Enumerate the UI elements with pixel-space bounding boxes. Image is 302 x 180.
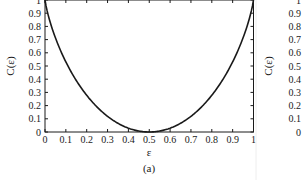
panel-b-y-tick-label: 0.3 xyxy=(289,87,302,98)
panel-b-y-tick-label: 0.8 xyxy=(289,21,302,32)
panel-b-y-tick-label: 0 xyxy=(296,127,301,138)
y-tick-label: 0.9 xyxy=(29,8,42,19)
x-tick-label: 1 xyxy=(251,134,256,145)
y-tick-label: 0.5 xyxy=(29,61,42,72)
y-tick-labels: 00.10.20.30.40.50.60.70.80.91 xyxy=(29,0,42,138)
x-tick-label: 0.9 xyxy=(226,134,239,145)
panel-b-y-tick-label: 0.2 xyxy=(289,100,302,111)
x-tick-label: 0.5 xyxy=(143,134,156,145)
y-axis-label: C(ε) xyxy=(4,56,17,76)
panel-b-y-tick-label: 0.6 xyxy=(289,47,302,58)
y-tick-label: 0.7 xyxy=(29,34,42,45)
x-tick-label: 0.7 xyxy=(185,134,198,145)
panel-b-y-tick-labels: 00.10.20.30.40.50.60.70.80.91 xyxy=(289,0,302,138)
x-tick-label: 0 xyxy=(43,134,48,145)
x-tick-label: 0.2 xyxy=(80,134,93,145)
y-tick-label: 0.2 xyxy=(29,100,42,111)
panel-b-y-tick-label: 0.4 xyxy=(289,74,302,85)
panel-b-y-tick-label: 0.9 xyxy=(289,8,302,19)
panel-b-y-tick-label: 1 xyxy=(296,0,301,6)
x-tick-label: 0.8 xyxy=(206,134,219,145)
y-tick-label: 0.8 xyxy=(29,21,42,32)
y-tick-label: 0.4 xyxy=(29,74,42,85)
panel-b-y-tick-label: 0.5 xyxy=(289,61,302,72)
y-tick-label: 0.3 xyxy=(29,87,42,98)
figure: 00.10.20.30.40.50.60.70.80.91 00.10.20.3… xyxy=(0,0,302,180)
y-tick-label: 1 xyxy=(36,0,41,6)
panel-b-y-tick-label: 0.1 xyxy=(289,113,302,124)
y-tick-label: 0.1 xyxy=(29,113,42,124)
x-tick-label: 0.4 xyxy=(122,134,135,145)
y-tick-label: 0.6 xyxy=(29,47,42,58)
x-tick-label: 0.1 xyxy=(60,134,73,145)
panel-caption: (a) xyxy=(143,162,156,175)
panel-b-y-axis-label: C(ε) xyxy=(262,56,275,76)
x-tick-label: 0.6 xyxy=(164,134,177,145)
y-tick-label: 0 xyxy=(36,127,41,138)
x-axis-label: ε xyxy=(147,146,152,158)
x-tick-label: 0.3 xyxy=(101,134,114,145)
panel-b-y-tick-label: 0.7 xyxy=(289,34,302,45)
